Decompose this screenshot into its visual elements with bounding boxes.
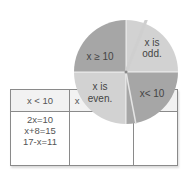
spinner: x ≥ 10 x is odd. x is even. x< 10 (74, 20, 178, 124)
svg-text:x< 10: x< 10 (140, 88, 165, 99)
svg-text:x is: x is (93, 81, 108, 92)
equation: x+8=15 (11, 125, 69, 136)
equation: 17-x=11 (11, 136, 69, 147)
equation: 2x=10 (11, 114, 69, 125)
equation-list: 2x=10 x+8=15 17-x=11 (11, 114, 69, 147)
svg-text:even.: even. (88, 93, 112, 104)
header-x-less-10: x < 10 (11, 95, 69, 106)
label-ge10: x ≥ 10 (86, 51, 114, 62)
column-divider (69, 90, 70, 165)
svg-text:odd.: odd. (142, 48, 161, 59)
svg-text:x is: x is (145, 37, 160, 48)
spinner-section-ge10 (74, 20, 126, 72)
